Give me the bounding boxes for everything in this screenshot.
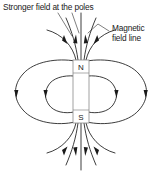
flux-lines-top [47,13,115,60]
bar-magnet: N S [73,60,89,123]
arrowhead-bottom-outer-right [94,147,100,156]
north-pole-label: N [78,63,84,72]
leader-lines [58,13,109,36]
flux-line-bottom-1 [47,123,76,153]
flux-line-top-1 [47,30,76,60]
arrowhead-left-inner [44,90,48,98]
annotations: Stronger field at the poles Magnetic fie… [3,2,144,43]
label-stronger-field: Stronger field at the poles [3,2,94,12]
arrowhead-top-outer-left [62,35,68,44]
field-line-left-inner [45,76,74,113]
south-pole-label: S [78,113,83,122]
label-magnetic-field-line-2: field line [112,33,141,43]
flux-line-bottom-5 [86,123,115,153]
arrowhead-bottom-right [84,147,88,156]
field-line-right-inner [88,76,117,113]
magnetic-field-diagram: N S Stronger field at the poles Magnetic… [0,0,161,177]
arrowhead-right-outer [144,90,148,98]
arrowhead-top-right [84,35,88,44]
flux-line-bottom-2 [66,123,78,165]
flux-line-top-5 [86,30,115,60]
flux-lines-bottom [47,123,115,170]
arrowhead-left-outer [14,90,18,98]
arrowhead-bottom-outer-left [62,147,68,156]
arrowhead-bottom-left [73,147,77,156]
label-magnetic-field-line-1: Magnetic [112,23,144,33]
arrowhead-top-outer-right [94,35,100,44]
flux-line-bottom-4 [84,123,96,165]
arrowhead-right-inner [114,90,118,98]
leader-line-top-right [72,13,79,33]
leader-line-top-left [58,13,72,36]
flux-arrowheads-bottom [62,147,99,157]
